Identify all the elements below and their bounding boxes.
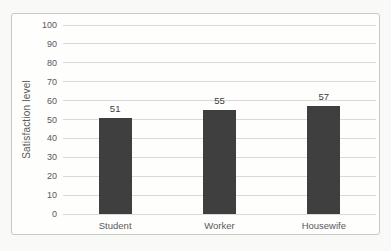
y-tick-label: 60 — [12, 95, 57, 107]
x-category-label: Worker — [167, 219, 271, 232]
bar-chart: Satisfaction level 515557 01020304050607… — [11, 13, 380, 235]
y-tick-label: 40 — [12, 132, 57, 144]
y-tick-label: 70 — [12, 76, 57, 88]
y-tick-label: 80 — [12, 57, 57, 69]
gridline — [63, 62, 376, 63]
y-tick-label: 50 — [12, 114, 57, 126]
bar-housewife — [307, 106, 340, 214]
bar-student — [99, 118, 132, 214]
gridline — [63, 81, 376, 82]
x-category-label: Housewife — [272, 219, 376, 232]
y-tick-label: 20 — [12, 170, 57, 182]
bar-value-label: 57 — [304, 91, 344, 103]
page-background: Satisfaction level 515557 01020304050607… — [0, 0, 391, 251]
bar-worker — [203, 110, 236, 214]
x-category-label: Student — [63, 219, 167, 232]
plot-area: 515557 — [63, 25, 376, 214]
y-tick-label: 10 — [12, 189, 57, 201]
gridline — [63, 43, 376, 44]
bar-value-label: 51 — [95, 103, 135, 115]
bar-value-label: 55 — [200, 95, 240, 107]
y-tick-label: 0 — [12, 208, 57, 220]
gridline — [63, 25, 376, 26]
y-tick-label: 90 — [12, 38, 57, 50]
y-tick-label: 100 — [12, 19, 57, 31]
y-tick-label: 30 — [12, 151, 57, 163]
